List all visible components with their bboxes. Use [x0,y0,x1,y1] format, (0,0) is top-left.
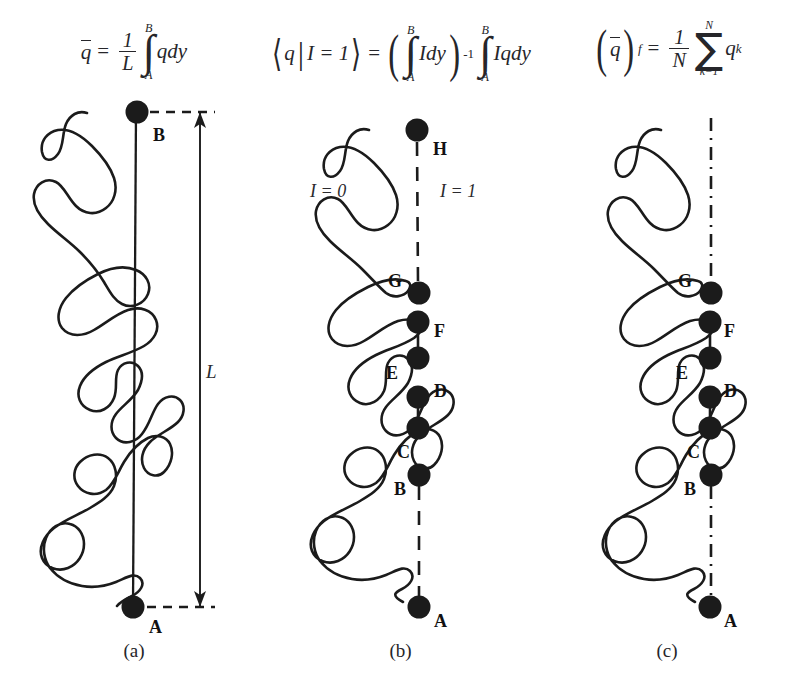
figure-root: q = 1 L B ∫ A qdy [0,0,801,699]
length-label-l: L [206,362,217,381]
dot-h [406,119,429,142]
panel-b-graphics [268,0,533,699]
chord-segment-h-g [417,142,418,283]
chord-line-a [133,112,136,607]
caption-c: (c) [533,640,801,662]
point-label-b: B [684,480,696,498]
point-label-g: G [388,272,402,290]
dot-f [407,311,430,334]
point-label-e: E [676,364,688,382]
panel-b: ⟨ q | I = 1 ⟩ = ( B ∫ A Idy ) -1 B ∫ A [268,0,533,699]
dot-c [700,464,723,487]
point-label-d: D [724,382,737,400]
panel-a-graphics [0,0,268,699]
point-label-a: A [724,612,737,630]
dot-d2 [407,417,430,440]
point-label-e: E [386,364,398,382]
point-label-d: D [434,382,447,400]
dot-d2 [699,417,722,440]
point-label-b: B [153,126,165,144]
dot-g [700,282,723,305]
point-label-a: A [149,618,162,636]
flame-front-curve-c [603,129,746,602]
dot-g [408,282,431,305]
dot-e [699,347,722,370]
dot-d [699,386,722,409]
dot-a [122,596,145,619]
panel-c-graphics [533,0,801,699]
point-label-a: A [434,612,447,630]
point-label-c: C [687,443,700,461]
dot-c [408,464,431,487]
flame-front-curve-a [34,112,184,606]
point-label-h: H [433,140,447,158]
dot-e [407,347,430,370]
dot-a [408,596,431,619]
point-label-f: F [724,322,735,340]
caption-b: (b) [268,640,533,662]
dot-d [407,386,430,409]
indicator-label-i0: I = 0 [310,182,346,200]
panel-c: ( q ) f = 1 N N ∑ k=1 q k [533,0,801,699]
dot-a [699,596,722,619]
point-label-f: F [434,322,445,340]
point-label-c: C [397,443,410,461]
caption-a: (a) [0,640,268,662]
point-label-b: B [394,480,406,498]
panel-a: q = 1 L B ∫ A qdy [0,0,268,699]
point-label-g: G [678,272,692,290]
indicator-label-i1: I = 1 [440,182,476,200]
dot-b [126,101,149,124]
dot-f [699,311,722,334]
